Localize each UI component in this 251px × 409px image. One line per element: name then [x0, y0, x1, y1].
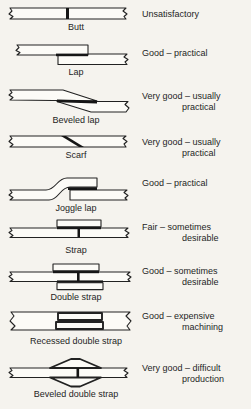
joint-row-strap: Strap Fair – sometimes desirable	[0, 218, 251, 262]
rating-text: Very good – usually practical	[138, 135, 251, 159]
joint-label: Recessed double strap	[0, 336, 138, 347]
rating-text: Good – practical	[138, 44, 251, 59]
joint-label: Lap	[0, 67, 138, 78]
joint-row-lap: Lap Good – practical	[0, 44, 251, 87]
rating-text: Good – expensive machining	[138, 309, 251, 333]
joint-label: Scarf	[0, 150, 138, 161]
double-strap-joint-drawing	[0, 262, 138, 291]
joint-label: Double strap	[0, 292, 138, 303]
joint-label: Beveled lap	[0, 115, 138, 126]
scarf-joint-drawing	[0, 135, 138, 149]
joint-row-butt: Butt Unsatisfactory	[0, 7, 251, 44]
joint-row-scarf: Scarf Very good – usually practical	[0, 135, 251, 172]
rating-text: Very good – difficult production	[138, 357, 251, 385]
joint-label: Butt	[0, 22, 138, 33]
beveled-lap-joint-drawing	[0, 87, 138, 114]
joggle-lap-joint-drawing	[0, 172, 138, 202]
joint-row-beveled-lap: Beveled lap Very good – usually practica…	[0, 87, 251, 135]
joint-row-joggle-lap: Joggle lap Good – practical	[0, 172, 251, 218]
rating-text: Good – practical	[138, 172, 251, 189]
lap-joint-drawing	[0, 44, 138, 66]
rating-text: Very good – usually practical	[138, 87, 251, 113]
rating-text: Fair – sometimes desirable	[138, 218, 251, 244]
joint-row-recessed-double-strap: Recessed double strap Good – expensive m…	[0, 309, 251, 357]
joint-label: Beveled double strap	[0, 389, 138, 400]
butt-joint-drawing	[0, 7, 138, 21]
recessed-double-strap-joint-drawing	[0, 309, 138, 335]
strap-joint-drawing	[0, 218, 138, 244]
joint-row-beveled-double-strap: Beveled double strap Very good – difficu…	[0, 357, 251, 404]
rating-text: Good – sometimes desirable	[138, 262, 251, 288]
joint-types-figure: Butt Unsatisfactory Lap Good – practical	[0, 0, 251, 409]
joint-label: Joggle lap	[0, 203, 138, 214]
rating-text: Unsatisfactory	[138, 7, 251, 20]
beveled-double-strap-joint-drawing	[0, 357, 138, 388]
joint-row-double-strap: Double strap Good – sometimes desirable	[0, 262, 251, 309]
joint-label: Strap	[0, 245, 138, 256]
